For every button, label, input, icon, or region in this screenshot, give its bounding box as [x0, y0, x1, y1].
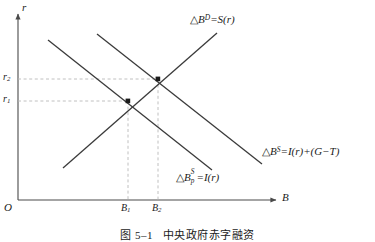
y-tick-label-r1: r1 — [3, 94, 10, 105]
curve-total-rest: =I(r)+(G−T) — [280, 145, 339, 157]
curve-demand-base: B — [198, 13, 205, 25]
curve-demand-rest: =S(r) — [210, 13, 235, 25]
equilibrium-point-2 — [156, 77, 161, 82]
curve-label-total-bond-supply: △BS=I(r)+(G−T) — [262, 146, 339, 157]
curve-private-rest: =I(r) — [196, 171, 219, 183]
equilibrium-point-1 — [126, 99, 131, 104]
x-tick-b2-sub: 2 — [158, 206, 161, 213]
x-tick-label-b2: B2 — [152, 203, 162, 214]
curve-private-sub: p — [191, 178, 195, 185]
y-tick-r1-sub: 1 — [7, 97, 10, 104]
curve-label-private-bond-supply: △BSp=I(r) — [176, 172, 219, 183]
delta-symbol-total: △ — [262, 145, 270, 157]
x-axis-label: B — [282, 192, 289, 203]
curve-private-base: B — [184, 171, 191, 183]
curve-label-demand-savings: △BD=S(r) — [190, 14, 235, 25]
curve-private-sup: S — [191, 169, 195, 176]
origin-label: O — [4, 202, 12, 213]
curve-demand-savings — [63, 33, 217, 168]
delta-symbol-private: △ — [176, 171, 184, 183]
y-axis-label: r — [22, 2, 26, 13]
curve-private-scripts: Sp — [191, 171, 197, 183]
x-tick-b1-sub: 1 — [127, 206, 130, 213]
delta-symbol-demand: △ — [190, 13, 198, 25]
curve-total-base: B — [270, 145, 277, 157]
x-tick-label-b1: B1 — [121, 203, 131, 214]
figure-caption: 图 5–1 中央政府赤字融资 — [0, 226, 375, 242]
y-tick-r2-sub: 2 — [7, 75, 10, 82]
y-tick-label-r2: r2 — [3, 72, 10, 83]
